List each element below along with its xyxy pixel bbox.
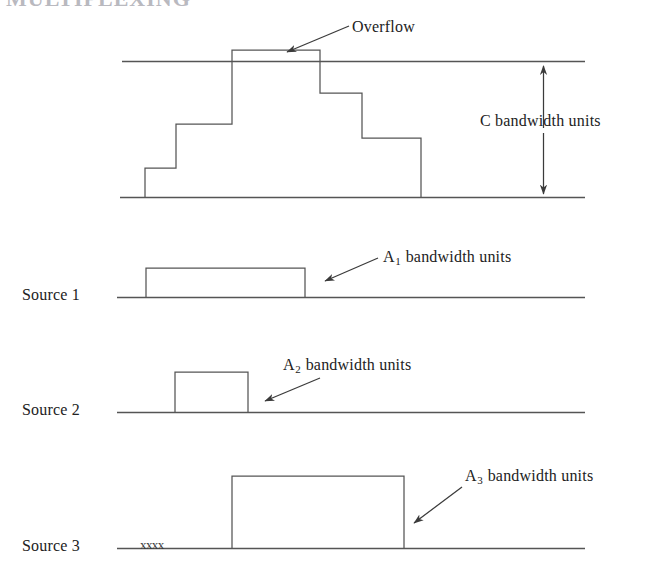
a3-label-text: bandwidth units (488, 467, 594, 484)
source-2-leader-arrow (265, 378, 320, 401)
a1-symbol: A (383, 248, 395, 265)
source-2-pulse (175, 372, 248, 412)
a3-symbol: A (465, 467, 477, 484)
capacity-label-text: C bandwidth units (480, 112, 601, 129)
figure-canvas: MULTIPLEXING (0, 0, 669, 578)
source-1-label: Source 1 (22, 286, 80, 304)
a1-label: A1 bandwidth units (383, 248, 511, 267)
overflow-label: Overflow (352, 18, 415, 36)
a2-symbol: A (283, 356, 295, 373)
a3-label: A3 bandwidth units (465, 467, 593, 486)
aggregate-step-curve (145, 50, 421, 197)
overflow-leader-arrow (287, 26, 349, 52)
a2-subscript: 2 (295, 363, 302, 375)
source-3-pulse (232, 476, 404, 548)
a2-label-text: bandwidth units (306, 356, 412, 373)
a1-label-text: bandwidth units (406, 248, 512, 265)
a1-subscript: 1 (395, 255, 402, 267)
source-1-panel (117, 258, 585, 298)
diagram-drawing (0, 0, 669, 578)
source-3-leader-arrow (414, 487, 462, 523)
a2-label: A2 bandwidth units (283, 356, 411, 375)
a3-subscript: 3 (477, 474, 484, 486)
source-3-panel (117, 476, 585, 549)
source-2-panel (117, 372, 585, 413)
capacity-label: C bandwidth units (480, 112, 601, 130)
source-2-label: Source 2 (22, 401, 80, 419)
source-3-label: Source 3 (22, 537, 80, 555)
handwritten-scribble-label: xxxx (140, 537, 164, 553)
source-1-leader-arrow (325, 258, 378, 281)
source-1-pulse (146, 268, 305, 297)
